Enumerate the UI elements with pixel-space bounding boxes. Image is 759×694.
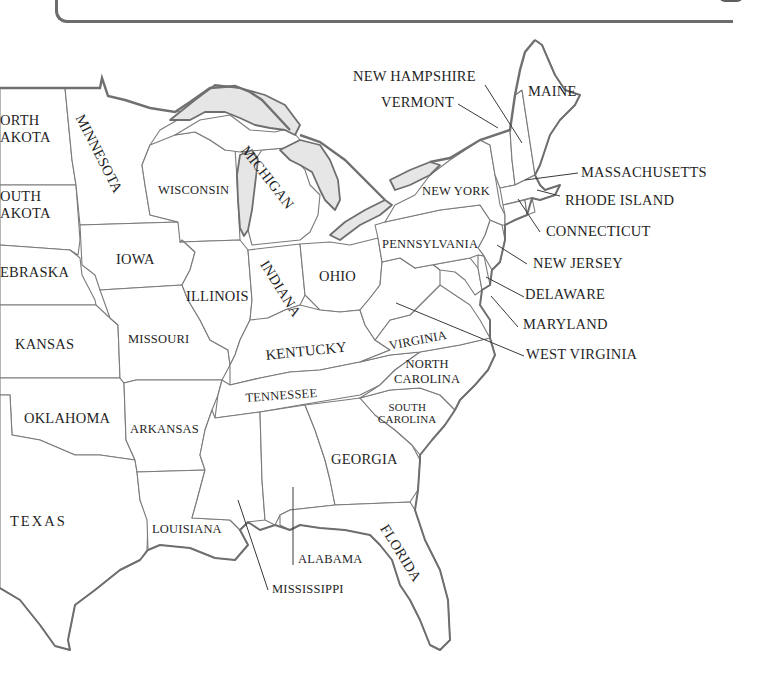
label-arkansas: ARKANSAS [130,423,199,436]
leader-maryland [491,296,518,327]
label-south-carolina: SOUTH CAROLINA [378,402,436,425]
label-new-hampshire: NEW HAMPSHIRE [353,69,476,84]
label-iowa: IOWA [116,252,155,267]
label-massachusetts: MASSACHUSETTS [581,165,707,180]
florida-shape [280,502,450,650]
connecticut-shape [503,200,527,225]
label-new-jersey: NEW JERSEY [533,256,623,271]
label-mississippi: MISSISSIPPI [272,583,344,596]
label-connecticut: CONNECTICUT [546,224,651,239]
label-vermont: VERMONT [381,95,454,110]
label-missouri: MISSOURI [128,333,189,346]
label-wisconsin: WISCONSIN [158,184,229,197]
label-south-dakota: OUTH AKOTA [0,188,51,223]
label-new-york: NEW YORK [422,185,490,198]
leader-vermont [458,104,498,128]
label-north-carolina: NORTH CAROLINA [394,357,460,387]
label-louisiana: LOUISIANA [152,523,222,536]
label-north-dakota: ORTH AKOTA [0,112,51,147]
label-rhode-island: RHODE ISLAND [565,193,674,208]
label-texas: TEXAS [10,514,67,529]
label-delaware: DELAWARE [525,287,605,302]
label-illinois: ILLINOIS [186,289,249,304]
label-nebraska: EBRASKA [0,265,69,280]
label-georgia: GEORGIA [331,452,398,467]
label-west-virginia: WEST VIRGINIA [526,347,637,362]
label-kansas: KANSAS [15,337,74,352]
label-maine: MAINE [528,84,577,99]
eastern-us-map [0,0,759,694]
leader-delaware [486,277,524,297]
label-oklahoma: OKLAHOMA [24,411,110,426]
label-alabama: ALABAMA [298,553,363,566]
label-ohio: OHIO [319,269,356,284]
label-maryland: MARYLAND [523,317,608,332]
label-pennsylvania: PENNSYLVANIA [382,238,478,251]
